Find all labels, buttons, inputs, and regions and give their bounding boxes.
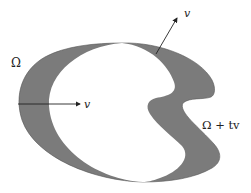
domain-perturbation-diagram: v v Ω Ω + tv xyxy=(0,0,251,193)
omega-label: Ω xyxy=(11,56,21,70)
v-label-horizontal: v xyxy=(84,98,91,111)
normal-arrow-icon xyxy=(156,18,177,54)
omega-shifted-label: Ω + tv xyxy=(202,118,240,132)
v-label-normal: v xyxy=(184,7,191,20)
